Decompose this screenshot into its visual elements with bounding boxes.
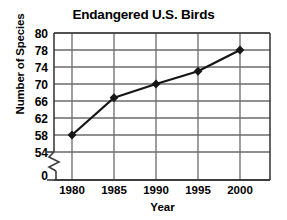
plot-area — [0, 0, 287, 220]
chart-figure: Endangered U.S. Birds Number of Species … — [0, 0, 287, 220]
plot-background — [54, 33, 270, 180]
